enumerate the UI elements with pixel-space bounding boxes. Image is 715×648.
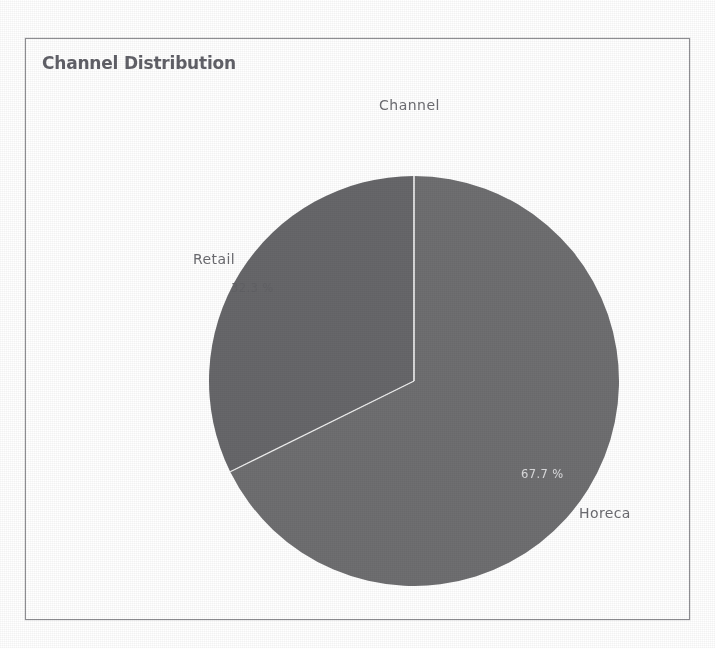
pie-graphic — [204, 171, 624, 591]
pie-label-horeca: Horeca — [579, 505, 631, 521]
chart-series-title: Channel — [26, 97, 689, 113]
pie-value-retail: 32.3 % — [231, 281, 274, 295]
clipped-page-text: is between two channels - Horeca and Ret… — [0, 0, 715, 3]
chart-panel: Channel Distribution Channel Retail 32.3… — [25, 38, 690, 620]
pie-value-horeca: 67.7 % — [521, 467, 564, 481]
chart-series-title-text: Channel — [379, 97, 440, 113]
pie-label-retail: Retail — [193, 251, 235, 267]
pie-chart: Channel Retail 32.3 % Horeca 67.7 % — [26, 39, 689, 619]
